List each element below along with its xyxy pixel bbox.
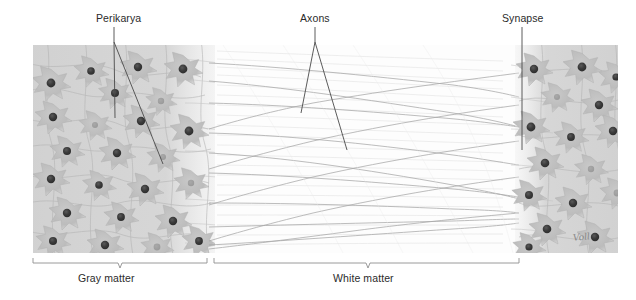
figure-root: Perikarya Axons Synapse Gray matter Whit… (0, 0, 636, 300)
callout-label-perikarya: Perikarya (96, 12, 141, 24)
gray-matter-left (33, 45, 235, 253)
histology-illustration (33, 45, 618, 253)
gray-matter-right (511, 45, 618, 253)
region-label-white-matter: White matter (333, 272, 394, 284)
region-label-gray-matter: Gray matter (78, 272, 135, 284)
bracket-white-matter (214, 258, 519, 268)
illustration-svg (33, 45, 618, 253)
callout-label-synapse: Synapse (502, 12, 544, 24)
artist-signature: Voll (573, 231, 591, 243)
callout-label-axons: Axons (300, 12, 330, 24)
white-matter-axon-bundle (209, 45, 519, 253)
bracket-gray-matter (33, 258, 207, 268)
